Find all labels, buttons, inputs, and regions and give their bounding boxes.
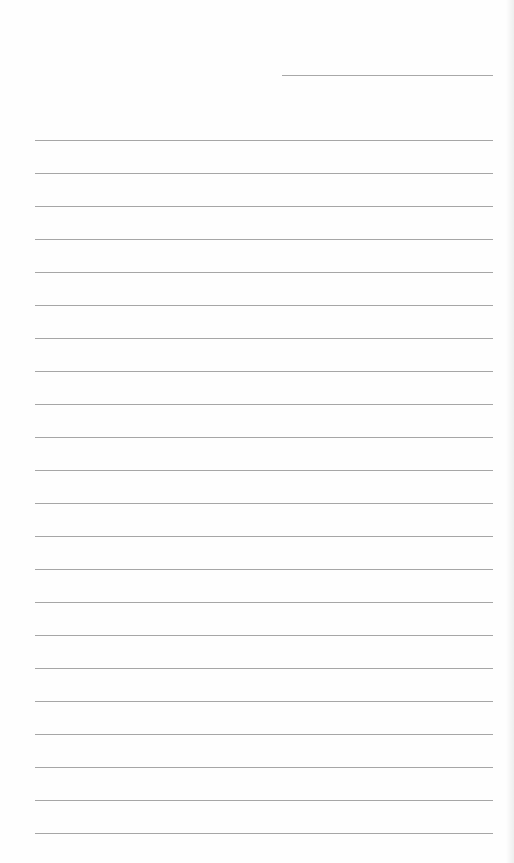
page-edge-shadow (506, 0, 514, 863)
ruled-line (35, 635, 493, 636)
ruled-line (35, 668, 493, 669)
ruled-line (35, 272, 493, 273)
ruled-line (35, 767, 493, 768)
ruled-line (35, 338, 493, 339)
ruled-line (35, 800, 493, 801)
ruled-line (35, 305, 493, 306)
ruled-line (35, 602, 493, 603)
ruled-line (35, 833, 493, 834)
ruled-line (35, 437, 493, 438)
ruled-line (35, 173, 493, 174)
ruled-line (35, 239, 493, 240)
ruled-line (35, 140, 493, 141)
ruled-line (35, 206, 493, 207)
ruled-line (35, 404, 493, 405)
ruled-line (35, 371, 493, 372)
lined-paper-page (0, 0, 514, 863)
header-name-line (282, 75, 493, 76)
ruled-line (35, 503, 493, 504)
ruled-line (35, 701, 493, 702)
ruled-line (35, 734, 493, 735)
ruled-line (35, 536, 493, 537)
ruled-line (35, 569, 493, 570)
ruled-line (35, 470, 493, 471)
